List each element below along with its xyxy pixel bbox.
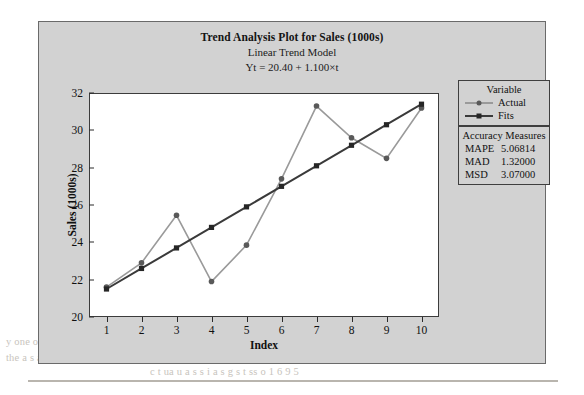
x-tick-mark-2 (142, 317, 143, 322)
data-point-fits-2 (139, 266, 144, 271)
x-tick-mark-9 (387, 317, 388, 322)
data-point-fits-4 (209, 225, 214, 230)
figure-panel: Trend Analysis Plot for Sales (1000s) Li… (38, 21, 546, 364)
data-point-actual-6 (279, 176, 285, 182)
x-axis-title: Index (89, 339, 439, 351)
y-tick-mark-30 (89, 130, 94, 131)
bleed-line-3: c t ua u a s s i a s g s t ss o 1 6 9 5 (150, 366, 299, 377)
data-point-actual-3 (174, 212, 180, 218)
accuracy-metric-value: 1.32000 (501, 155, 545, 168)
chart-canvas (89, 93, 439, 317)
y-tick-label-24: 24 (72, 236, 84, 248)
data-point-fits-8 (349, 143, 354, 148)
accuracy-row-msd: MSD3.07000 (459, 168, 549, 181)
legend-swatch-actual (465, 97, 493, 108)
x-tick-label-8: 8 (349, 324, 355, 336)
x-tick-mark-3 (177, 317, 178, 322)
data-point-actual-9 (384, 156, 390, 162)
y-tick-label-30: 30 (72, 124, 84, 136)
accuracy-metric-value: 5.06814 (501, 142, 545, 155)
x-tick-mark-8 (352, 317, 353, 322)
accuracy-measures-header: Accuracy Measures (459, 129, 549, 142)
x-tick-label-9: 9 (384, 324, 390, 336)
y-tick-label-20: 20 (72, 311, 84, 323)
data-point-fits-10 (419, 102, 424, 107)
data-point-actual-7 (314, 103, 320, 109)
y-tick-mark-28 (89, 167, 94, 168)
legend-circle-marker-icon (477, 100, 482, 105)
x-tick-label-10: 10 (416, 324, 428, 336)
accuracy-measures-box: Accuracy Measures MAPE5.06814MAD1.32000M… (458, 126, 550, 185)
y-tick-label-28: 28 (72, 162, 84, 174)
chart-subtitle: Linear Trend Model (39, 45, 545, 60)
x-tick-mark-6 (282, 317, 283, 322)
y-tick-mark-32 (89, 93, 94, 94)
x-tick-label-1: 1 (104, 324, 110, 336)
legend-entries: ActualFits (459, 96, 549, 122)
y-tick-mark-20 (89, 317, 94, 318)
x-tick-mark-5 (247, 317, 248, 322)
x-tick-mark-7 (317, 317, 318, 322)
x-tick-label-7: 7 (314, 324, 320, 336)
x-tick-label-4: 4 (209, 324, 215, 336)
y-tick-label-22: 22 (72, 274, 84, 286)
x-tick-label-6: 6 (279, 324, 285, 336)
x-tick-mark-1 (107, 317, 108, 322)
legend-item-fits: Fits (459, 109, 549, 122)
plot-region: 20222426283032 12345678910 Index Sales (… (89, 93, 439, 317)
data-point-fits-9 (384, 122, 389, 127)
series-line-fits (107, 104, 422, 289)
accuracy-metric-name: MAD (465, 155, 501, 168)
data-point-actual-5 (244, 242, 250, 248)
legend-label: Actual (498, 96, 526, 109)
x-tick-label-3: 3 (174, 324, 180, 336)
x-tick-label-5: 5 (244, 324, 250, 336)
data-point-actual-8 (349, 135, 355, 141)
x-tick-mark-4 (212, 317, 213, 322)
page-rule (28, 380, 558, 382)
data-point-fits-7 (314, 163, 319, 168)
y-tick-label-32: 32 (72, 87, 84, 99)
accuracy-row-mape: MAPE5.06814 (459, 142, 549, 155)
y-axis-title: Sales (1000s) (66, 174, 78, 237)
accuracy-metric-name: MSD (465, 168, 501, 181)
legend: Variable ActualFits (458, 80, 550, 126)
data-point-fits-3 (174, 245, 179, 250)
accuracy-metric-value: 3.07000 (501, 168, 545, 181)
accuracy-metric-name: MAPE (465, 142, 501, 155)
legend-label: Fits (498, 109, 514, 122)
data-point-fits-1 (104, 286, 109, 291)
data-point-fits-5 (244, 204, 249, 209)
chart-titles: Trend Analysis Plot for Sales (1000s) Li… (39, 30, 545, 75)
x-tick-mark-10 (422, 317, 423, 322)
accuracy-row-mad: MAD1.32000 (459, 155, 549, 168)
legend-swatch-fits (465, 110, 493, 121)
legend-square-marker-icon (477, 113, 482, 118)
x-tick-label-2: 2 (139, 324, 145, 336)
y-tick-mark-22 (89, 279, 94, 280)
data-point-fits-6 (279, 184, 284, 189)
accuracy-measures-rows: MAPE5.06814MAD1.32000MSD3.07000 (459, 142, 549, 181)
legend-item-actual: Actual (459, 96, 549, 109)
data-point-actual-2 (139, 260, 145, 266)
chart-title: Trend Analysis Plot for Sales (1000s) (39, 30, 545, 45)
data-point-actual-4 (209, 279, 215, 285)
y-tick-mark-26 (89, 205, 94, 206)
chart-equation: Yt = 20.40 + 1.100×t (39, 60, 545, 75)
y-tick-mark-24 (89, 242, 94, 243)
legend-header: Variable (459, 83, 549, 96)
